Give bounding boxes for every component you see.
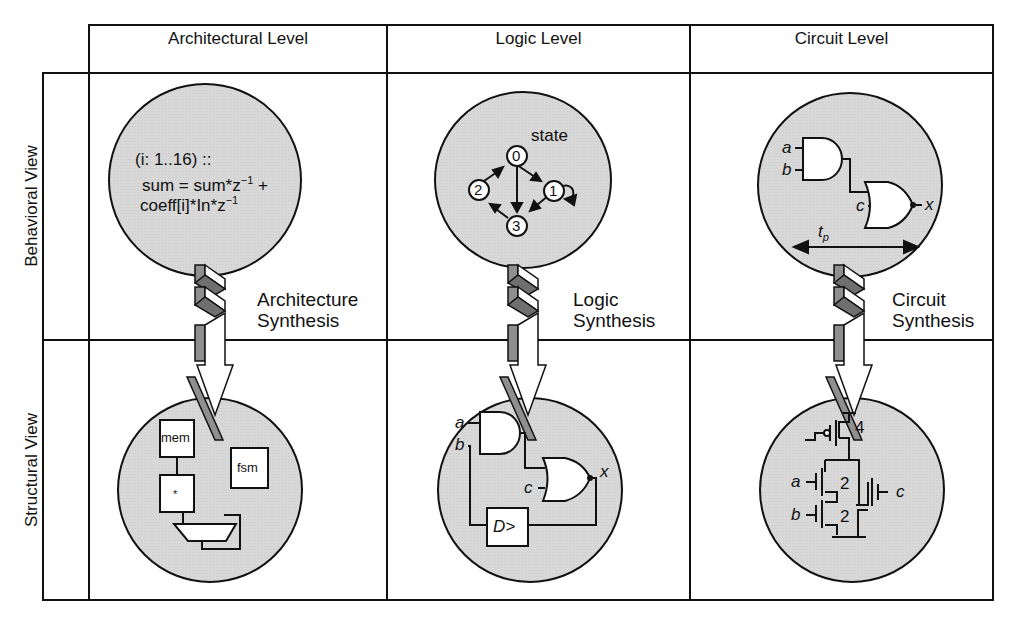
logic-synthesis-label-2: Synthesis: [573, 310, 655, 332]
input-c-label: c: [524, 478, 533, 498]
logic-synthesis-label-1: Logic: [573, 289, 618, 311]
delay-label-sub: p: [823, 231, 829, 243]
input-a-label: a: [455, 413, 464, 433]
state-1: 1: [549, 181, 557, 201]
arch-synthesis-label-2: Synthesis: [257, 310, 339, 332]
pmos-size-label: 4: [855, 418, 864, 438]
input-b-label: b: [791, 505, 800, 525]
arch-synthesis-label-1: Architecture: [257, 289, 358, 311]
mem-block-label: mem: [161, 428, 190, 448]
input-c-label: c: [896, 482, 905, 502]
code-line-2-sup: −1: [241, 174, 254, 186]
input-c-label: c: [856, 196, 865, 216]
output-x-label: x: [600, 462, 609, 482]
state-0: 0: [512, 146, 520, 166]
nmos-b-size-label: 2: [840, 507, 849, 527]
row-header-behavioral: Behavioral View: [22, 106, 42, 306]
nmos-a-size-label: 2: [840, 474, 849, 494]
y-chart-diagram: [0, 0, 1032, 629]
mult-block-label: *: [173, 484, 177, 504]
circuit-synthesis-label-1: Circuit: [892, 289, 946, 311]
dff-label: D>: [493, 517, 515, 537]
column-header-architectural: Architectural Level: [89, 29, 387, 49]
column-header-logic: Logic Level: [387, 29, 690, 49]
row-header-structural: Structural View: [22, 370, 42, 570]
input-a-label: a: [791, 472, 800, 492]
code-line-2-tail: +: [253, 176, 268, 195]
circuit-synthesis-label-2: Synthesis: [892, 310, 974, 332]
output-x-label: x: [925, 195, 934, 215]
delay-label: tp: [818, 222, 829, 247]
code-line-1: (i: 1..16) ::: [135, 150, 212, 170]
state-label: state: [531, 126, 568, 146]
state-3: 3: [512, 216, 520, 236]
code-line-3: coeff[i]*In*z−1: [140, 190, 238, 216]
fsm-block-label: fsm: [237, 458, 258, 478]
code-line-3-sup: −1: [226, 194, 239, 206]
state-2: 2: [474, 180, 482, 200]
code-line-3-text: coeff[i]*In*z: [140, 196, 226, 215]
input-a-label: a: [782, 138, 791, 158]
input-b-label: b: [455, 435, 464, 455]
input-b-label: b: [782, 160, 791, 180]
bubble-logic-behavioral: [435, 92, 611, 268]
column-header-circuit: Circuit Level: [690, 29, 993, 49]
